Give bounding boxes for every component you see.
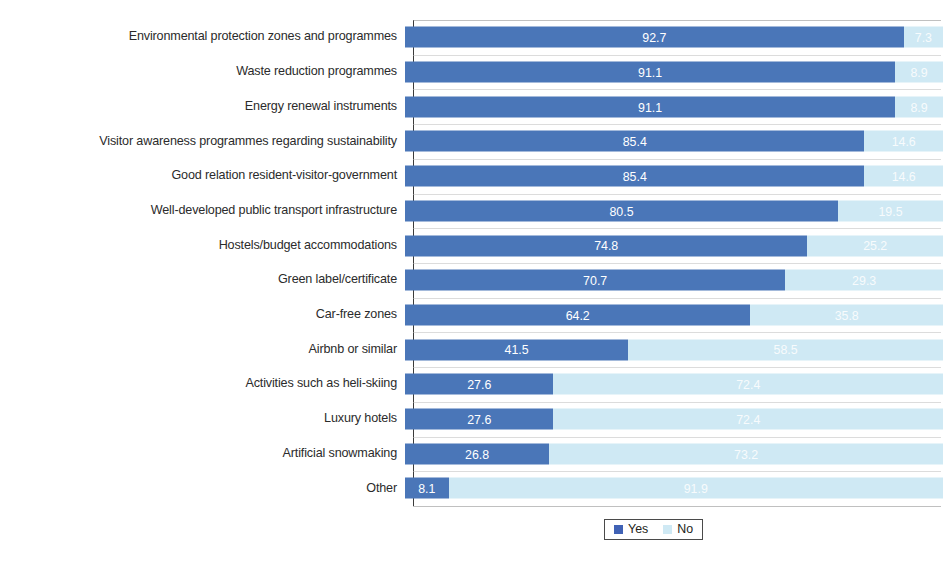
bar-track: 91.18.9 (405, 55, 943, 90)
stacked-bar: 74.825.2 (405, 235, 943, 256)
bar-value-yes: 91.1 (638, 66, 662, 78)
bar-segment-no[interactable]: 25.2 (807, 235, 943, 256)
bar-value-no: 14.6 (892, 170, 916, 182)
bar-value-no: 7.3 (915, 32, 932, 44)
bar-segment-no[interactable]: 14.6 (864, 166, 943, 187)
bar-value-yes: 85.4 (623, 136, 647, 148)
bar-value-no: 91.9 (684, 483, 708, 495)
bar-value-yes: 26.8 (465, 448, 489, 460)
chart-legend: Yes No (604, 519, 703, 540)
bar-value-yes: 92.7 (642, 32, 666, 44)
category-label: Good relation resident-visitor-governmen… (0, 169, 405, 183)
bar-segment-no[interactable]: 8.9 (895, 62, 943, 83)
bar-track: 70.729.3 (405, 263, 943, 298)
stacked-bar: 85.414.6 (405, 131, 943, 152)
bar-value-no: 14.6 (892, 136, 916, 148)
legend-label-yes: Yes (628, 523, 648, 535)
stacked-bar: 92.77.3 (405, 27, 943, 48)
bar-segment-yes[interactable]: 80.5 (405, 200, 838, 221)
bar-value-no: 58.5 (774, 344, 798, 356)
bar-segment-no[interactable]: 72.4 (553, 409, 943, 430)
bar-segment-yes[interactable]: 64.2 (405, 304, 750, 325)
bar-value-no: 35.8 (835, 309, 859, 321)
bar-value-yes: 85.4 (623, 170, 647, 182)
legend-swatch-yes-icon (614, 525, 623, 534)
legend-swatch-no-icon (663, 525, 672, 534)
bar-value-yes: 74.8 (594, 240, 618, 252)
stacked-bar: 26.873.2 (405, 443, 943, 464)
bar-track: 27.672.4 (405, 367, 943, 402)
bar-value-no: 29.3 (852, 275, 876, 287)
stacked-bar: 27.672.4 (405, 409, 943, 430)
stacked-bar: 64.235.8 (405, 304, 943, 325)
category-label: Visitor awareness programmes regarding s… (0, 135, 405, 149)
category-label: Energy renewal instruments (0, 100, 405, 114)
bar-segment-no[interactable]: 73.2 (549, 443, 943, 464)
bar-segment-no[interactable]: 29.3 (785, 270, 943, 291)
category-label: Green label/certificate (0, 273, 405, 287)
chart-row: Green label/certificate70.729.3 (0, 263, 943, 298)
bar-segment-yes[interactable]: 91.1 (405, 96, 895, 117)
bar-value-yes: 91.1 (638, 101, 662, 113)
bar-value-yes: 80.5 (609, 205, 633, 217)
bar-segment-yes[interactable]: 41.5 (405, 339, 628, 360)
category-label: Airbnb or similar (0, 343, 405, 357)
bar-segment-no[interactable]: 7.3 (904, 27, 943, 48)
chart-row: Environmental protection zones and progr… (0, 20, 943, 55)
bar-track: 64.235.8 (405, 298, 943, 333)
legend-item-no[interactable]: No (663, 523, 693, 535)
bar-segment-yes[interactable]: 85.4 (405, 131, 864, 152)
category-label: Other (0, 482, 405, 496)
stacked-bar: 91.18.9 (405, 96, 943, 117)
stacked-bar: 80.519.5 (405, 200, 943, 221)
category-label: Waste reduction programmes (0, 65, 405, 79)
bar-value-no: 72.4 (736, 413, 760, 425)
stacked-bar: 8.191.9 (405, 478, 943, 499)
bar-track: 8.191.9 (405, 471, 943, 506)
bar-value-yes: 27.6 (467, 379, 491, 391)
bar-segment-no[interactable]: 35.8 (750, 304, 943, 325)
bar-segment-yes[interactable]: 92.7 (405, 27, 904, 48)
bar-value-no: 8.9 (910, 66, 927, 78)
bar-segment-no[interactable]: 8.9 (895, 96, 943, 117)
bar-segment-yes[interactable]: 27.6 (405, 409, 553, 430)
bar-track: 74.825.2 (405, 228, 943, 263)
chart-row: Hostels/budget accommodations74.825.2 (0, 228, 943, 263)
bar-segment-yes[interactable]: 85.4 (405, 166, 864, 187)
bar-track: 41.558.5 (405, 332, 943, 367)
bar-segment-no[interactable]: 14.6 (864, 131, 943, 152)
chart-row: Visitor awareness programmes regarding s… (0, 124, 943, 159)
chart-rows-area: Environmental protection zones and progr… (0, 20, 943, 506)
chart-row: Luxury hotels27.672.4 (0, 402, 943, 437)
bar-value-no: 73.2 (734, 448, 758, 460)
bar-segment-no[interactable]: 58.5 (628, 339, 943, 360)
category-label: Car-free zones (0, 308, 405, 322)
bar-track: 92.77.3 (405, 20, 943, 55)
category-label: Well-developed public transport infrastr… (0, 204, 405, 218)
bar-value-yes: 70.7 (583, 275, 607, 287)
bar-segment-yes[interactable]: 74.8 (405, 235, 807, 256)
bar-segment-yes[interactable]: 70.7 (405, 270, 785, 291)
bar-segment-no[interactable]: 72.4 (553, 374, 943, 395)
bar-segment-no[interactable]: 91.9 (449, 478, 943, 499)
bar-value-yes: 64.2 (566, 309, 590, 321)
bar-track: 27.672.4 (405, 402, 943, 437)
bar-segment-yes[interactable]: 27.6 (405, 374, 553, 395)
bar-value-no: 8.9 (910, 101, 927, 113)
stacked-bar-chart: Environmental protection zones and progr… (0, 0, 943, 564)
chart-row: Other8.191.9 (0, 471, 943, 506)
bar-segment-yes[interactable]: 8.1 (405, 478, 449, 499)
bar-track: 85.414.6 (405, 124, 943, 159)
bar-value-no: 19.5 (878, 205, 902, 217)
stacked-bar: 70.729.3 (405, 270, 943, 291)
chart-row: Good relation resident-visitor-governmen… (0, 159, 943, 194)
bar-segment-yes[interactable]: 91.1 (405, 62, 895, 83)
chart-row: Activities such as heli-skiing27.672.4 (0, 367, 943, 402)
legend-item-yes[interactable]: Yes (614, 523, 648, 535)
category-label: Luxury hotels (0, 412, 405, 426)
chart-row: Waste reduction programmes91.18.9 (0, 55, 943, 90)
bar-track: 85.414.6 (405, 159, 943, 194)
bar-segment-yes[interactable]: 26.8 (405, 443, 549, 464)
category-label: Activities such as heli-skiing (0, 377, 405, 391)
bar-segment-no[interactable]: 19.5 (838, 200, 943, 221)
